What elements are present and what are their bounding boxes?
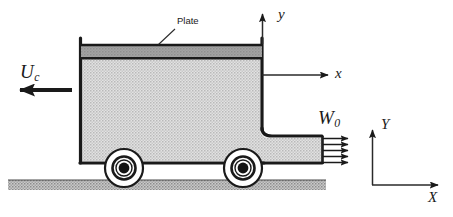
jet-velocity-arrows — [323, 136, 348, 164]
axis-Y-global-label: Y — [381, 117, 389, 132]
ground-surface — [8, 180, 326, 190]
plate-element — [81, 45, 262, 58]
plate-leader-line — [159, 29, 176, 45]
jet-velocity-symbol: W — [318, 107, 334, 128]
jet-velocity-label: W0 — [318, 108, 340, 130]
axis-X-global-label: X — [428, 190, 437, 205]
wheel-rear — [224, 149, 262, 187]
wheel-front — [105, 149, 143, 187]
cart-velocity-label: Uc — [20, 62, 39, 84]
local-axes — [262, 14, 328, 75]
fluid-reservoir — [82, 58, 322, 161]
cart-velocity-symbol: U — [20, 61, 34, 82]
axis-y-local-label: y — [278, 7, 285, 22]
jet-cart-diagram: Uc W0 x y X Y Plate — [0, 0, 453, 217]
plate-callout-label: Plate — [177, 16, 199, 26]
diagram-canvas — [0, 0, 453, 217]
jet-velocity-subscript: 0 — [334, 117, 340, 130]
cart-velocity-subscript: c — [34, 71, 40, 84]
global-axes — [372, 130, 438, 185]
axis-x-local-label: x — [335, 66, 342, 81]
